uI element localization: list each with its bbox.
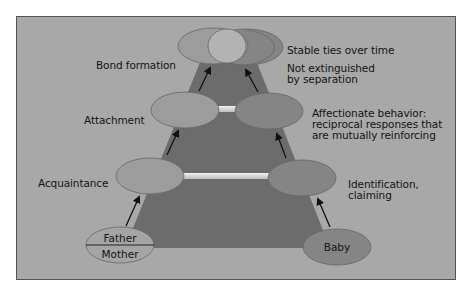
acquaintance-connector [182, 173, 272, 179]
parent-mother-label: Mother [88, 248, 152, 260]
parent-father-label: Father [88, 232, 152, 244]
bond-overlap [208, 29, 246, 63]
acquaintance-left-oval [116, 158, 184, 194]
attachment-pyramid-graphic [0, 0, 472, 300]
attachment-description-line-3: are mutually reinforcing [312, 130, 436, 142]
acquaintance-description-line-2: claiming [348, 190, 392, 202]
bond-description-line-1: Stable ties over time [287, 45, 394, 57]
acquaintance-right-oval [268, 160, 336, 196]
stage-label-acquaintance: Acquaintance [38, 178, 108, 190]
baby-label: Baby [305, 241, 369, 253]
stage-label-attachment: Attachment [84, 115, 145, 127]
attachment-left-oval [151, 92, 219, 128]
stage-label-bond-formation: Bond formation [96, 60, 176, 72]
attachment-connector [218, 106, 236, 112]
bond-description-line-3: by separation [287, 74, 358, 86]
attachment-right-oval [235, 93, 303, 129]
